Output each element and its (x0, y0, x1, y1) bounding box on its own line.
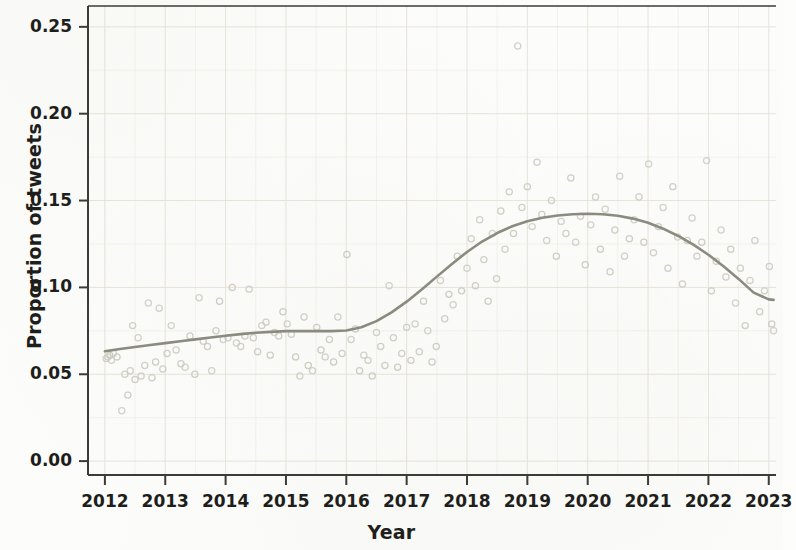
data-point (769, 321, 775, 327)
data-point (168, 323, 174, 329)
data-point (515, 43, 521, 49)
data-point (481, 257, 487, 263)
data-point (493, 276, 499, 282)
data-point (412, 321, 418, 327)
data-point (204, 343, 210, 349)
data-point (182, 364, 188, 370)
data-point (187, 333, 193, 339)
data-point (238, 343, 244, 349)
data-point (747, 277, 753, 283)
data-point (679, 281, 685, 287)
y-tick-label: 0.25 (0, 16, 72, 36)
data-point (737, 265, 743, 271)
data-point (348, 336, 354, 342)
y-tick-label: 0.05 (0, 363, 72, 383)
data-point (718, 227, 724, 233)
data-point (135, 335, 141, 341)
data-point (280, 309, 286, 315)
data-point (646, 161, 652, 167)
data-point (650, 250, 656, 256)
data-point (761, 288, 767, 294)
data-point (416, 349, 422, 355)
x-tick-label: 2023 (737, 491, 796, 511)
data-point (127, 368, 133, 374)
data-point (529, 224, 535, 230)
data-point (437, 277, 443, 283)
data-point (641, 239, 647, 245)
data-point (694, 253, 700, 259)
data-point (119, 408, 125, 414)
data-point (326, 336, 332, 342)
data-point (408, 357, 414, 363)
data-point (152, 359, 158, 365)
y-tick-label: 0.10 (0, 276, 72, 296)
x-tick-label: 2013 (133, 491, 197, 511)
y-tick-label: 0.00 (0, 450, 72, 470)
data-point (553, 253, 559, 259)
data-point (356, 368, 362, 374)
data-point (344, 251, 350, 257)
axis-ticks (79, 27, 769, 485)
data-points (103, 43, 777, 414)
x-tick-label: 2022 (676, 491, 740, 511)
data-point (395, 364, 401, 370)
data-point (145, 300, 151, 306)
data-point (173, 347, 179, 353)
data-point (442, 316, 448, 322)
data-point (276, 333, 282, 339)
data-point (458, 288, 464, 294)
data-point (699, 239, 705, 245)
data-point (156, 305, 162, 311)
data-point (588, 222, 594, 228)
x-tick-label: 2012 (73, 491, 137, 511)
data-point (339, 350, 345, 356)
grid-lines (88, 6, 776, 475)
data-point (510, 230, 516, 236)
data-point (544, 237, 550, 243)
data-point (621, 253, 627, 259)
data-point (267, 352, 273, 358)
data-point (519, 204, 525, 210)
data-point (254, 349, 260, 355)
data-point (670, 184, 676, 190)
data-point (573, 239, 579, 245)
data-point (708, 288, 714, 294)
data-point (125, 392, 131, 398)
y-tick-label: 0.15 (0, 190, 72, 210)
data-point (636, 194, 642, 200)
data-point (612, 227, 618, 233)
data-point (378, 343, 384, 349)
data-point (485, 298, 491, 304)
x-tick-label: 2017 (375, 491, 439, 511)
data-point (602, 206, 608, 212)
data-point (477, 217, 483, 223)
data-point (660, 204, 666, 210)
data-point (318, 347, 324, 353)
axis-spines (88, 6, 776, 475)
data-point (689, 215, 695, 221)
data-point (301, 314, 307, 320)
data-point (568, 175, 574, 181)
data-point (665, 265, 671, 271)
data-point (382, 362, 388, 368)
data-point (331, 359, 337, 365)
data-point (742, 323, 748, 329)
data-point (558, 218, 564, 224)
data-point (293, 354, 299, 360)
data-point (114, 354, 120, 360)
data-point (723, 274, 729, 280)
data-point (607, 269, 613, 275)
data-point (757, 309, 763, 315)
data-point (390, 335, 396, 341)
data-point (450, 302, 456, 308)
x-tick-label: 2019 (495, 491, 559, 511)
data-point (322, 354, 328, 360)
data-point (142, 362, 148, 368)
data-point (178, 361, 184, 367)
data-point (626, 236, 632, 242)
data-point (365, 357, 371, 363)
data-point (592, 194, 598, 200)
data-point (468, 236, 474, 242)
